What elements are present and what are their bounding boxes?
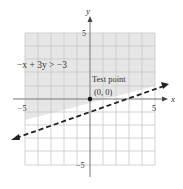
axis-y-label: y: [85, 6, 90, 16]
line-arrow-left-icon: [11, 134, 20, 140]
tick-y-neg: −5: [76, 161, 85, 170]
tick-y-pos: 5: [82, 29, 86, 38]
y-axis-arrow-icon: [88, 16, 93, 22]
tick-x-neg: −5: [18, 104, 27, 113]
test-point-label: Test point: [92, 74, 126, 84]
axis-x-label: x: [170, 94, 175, 104]
test-point-dot: [88, 97, 93, 102]
line-arrow-right-icon: [161, 82, 169, 89]
inequality-graph: x y −5 5 5 −5 −x + 3y > −3 Test point (0…: [0, 0, 183, 189]
x-axis-arrow-icon: [162, 97, 168, 102]
inequality-label: −x + 3y > −3: [17, 60, 67, 70]
tick-x-pos: 5: [152, 104, 156, 113]
test-point-coords: (0, 0): [94, 87, 113, 97]
